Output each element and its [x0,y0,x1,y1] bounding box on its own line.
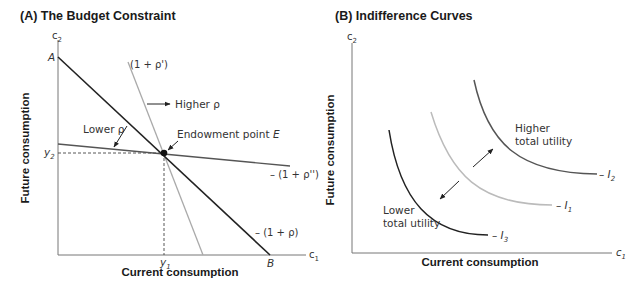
flat-budget-line [58,144,290,166]
higher-utility-arrow [473,149,493,167]
i1-label: – I1 [556,199,572,214]
point-a-label: A [47,51,55,63]
lower-utility-label-line2: total utility [383,217,440,229]
higher-utility-label-line1: Higher [515,122,551,134]
steep-budget-line [128,62,203,255]
indifference-curves-panel: (B) Indifference Curves c2 c1 Future con… [320,0,641,286]
c2-axis-label: c2 [347,31,357,45]
steep-line-label: (1 + ρ') [130,59,168,70]
c1-axis-label: c1 [309,249,319,263]
indifference-curves-chart: c2 c1 Future consumption Current consump… [320,0,641,286]
higher-utility-label-line2: total utility [515,135,572,147]
x-axis-title: Current consumption [122,266,239,278]
y-axis-title: Future consumption [19,92,31,203]
i3-label: – I3 [492,229,508,244]
lower-utility-label-line1: Lower [383,204,415,216]
higher-rho-label: Higher ρ [175,98,220,110]
i2-label: – I2 [599,168,616,183]
endowment-arrow [168,141,178,150]
flat-line-label: – (1 + ρ'') [270,169,319,180]
endowment-point [161,150,168,157]
x-axis-title: Current consumption [422,256,539,268]
y2-label: y2 [43,146,55,161]
budget-constraint-chart: c2 c1 Future consumption Current consump… [0,0,320,286]
main-line-label: – (1 + ρ) [255,227,299,238]
lower-rho-label: Lower ρ [83,123,125,135]
c1-axis-label: c1 [616,247,626,261]
point-b-label: B [267,257,274,269]
y-axis-title: Future consumption [324,94,336,205]
lower-utility-arrow [440,181,459,199]
endowment-label: Endowment point E [177,128,280,140]
c2-axis-label: c2 [52,30,62,44]
budget-constraint-panel: (A) The Budget Constraint c2 c1 Future c… [0,0,320,286]
